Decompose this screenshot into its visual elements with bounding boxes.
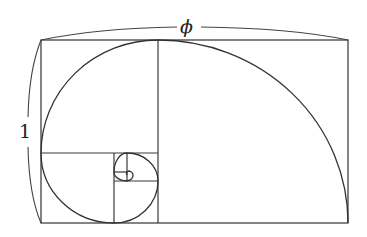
height-brace-upper <box>28 40 41 117</box>
spiral-arc-2 <box>41 40 158 153</box>
spiral-arc-9 <box>128 171 133 175</box>
dimension-braces <box>28 27 348 223</box>
height-brace-lower <box>28 147 41 223</box>
spiral-arc-6 <box>114 153 127 172</box>
spiral-arc-1 <box>158 40 348 223</box>
height-label-one: 1 <box>19 122 31 141</box>
width-label-phi: ϕ <box>180 17 193 36</box>
width-brace-left <box>41 27 177 40</box>
width-brace-right <box>201 27 348 40</box>
spiral-arc-7 <box>114 172 127 181</box>
golden-spiral <box>41 40 348 223</box>
spiral-arc-8 <box>127 175 133 181</box>
golden-rectangle <box>41 40 348 223</box>
spiral-arc-5 <box>127 153 158 181</box>
square-divisions <box>41 40 158 223</box>
spiral-arc-4 <box>114 181 158 223</box>
spiral-arc-3 <box>41 153 114 223</box>
